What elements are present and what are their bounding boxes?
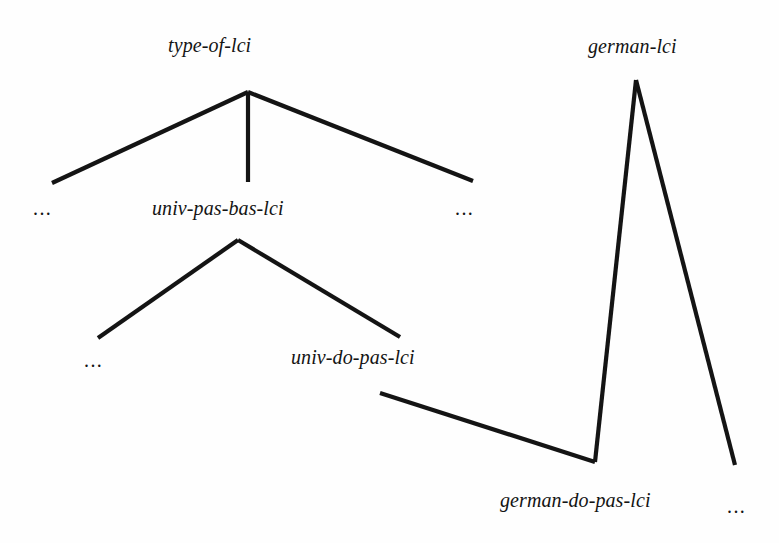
node-label-univ-pas-bas-lci: univ-pas-bas-lci xyxy=(152,198,284,218)
diagram-edges-layer xyxy=(0,0,779,543)
node-label-univ-do-pas-lci: univ-do-pas-lci xyxy=(291,347,415,367)
ellipsis-mid-left: ... xyxy=(84,350,103,370)
ellipsis-bottom-right: ... xyxy=(727,496,746,516)
edge-univ-do-pas-to-german-do-pas xyxy=(380,393,595,462)
edge-german-lci-right xyxy=(636,80,735,465)
node-label-type-of-lci: type-of-lci xyxy=(168,35,251,55)
ellipsis-top-left: ... xyxy=(33,198,52,218)
ellipsis-top-right: ... xyxy=(455,198,474,218)
edge-univ-pas-bas-lci-left xyxy=(98,240,238,338)
edge-german-lci-left xyxy=(595,80,636,462)
diagram-canvas: type-of-lci univ-pas-bas-lci univ-do-pas… xyxy=(0,0,779,543)
edge-type-of-lci-left xyxy=(52,92,248,183)
node-label-german-do-pas-lci: german-do-pas-lci xyxy=(500,490,651,510)
edge-type-of-lci-right xyxy=(248,92,473,181)
node-label-german-lci: german-lci xyxy=(588,36,677,56)
edge-univ-pas-bas-lci-right xyxy=(238,240,400,337)
